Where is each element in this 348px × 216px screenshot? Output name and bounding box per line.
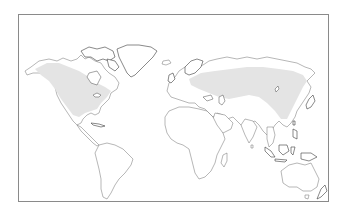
madagascar — [221, 153, 227, 167]
new-guinea — [301, 153, 317, 161]
taiwan — [293, 121, 295, 125]
india — [241, 119, 257, 143]
south-america-landmass — [95, 143, 133, 199]
java — [275, 159, 287, 162]
southeast-asia — [265, 121, 317, 162]
japan — [306, 95, 315, 109]
cuba — [91, 123, 105, 127]
world-map — [19, 15, 330, 203]
south-america — [95, 143, 133, 199]
central-america — [77, 125, 99, 146]
new-zealand — [317, 185, 327, 199]
sumatra — [265, 147, 275, 157]
map-frame — [18, 14, 329, 202]
borneo — [279, 145, 289, 155]
tasmania — [305, 195, 309, 199]
iceland — [162, 60, 171, 65]
sri-lanka — [251, 145, 253, 148]
greenland — [117, 45, 157, 77]
indochina — [267, 127, 275, 147]
sulawesi — [291, 147, 295, 155]
philippines — [293, 129, 297, 139]
baffin-island — [107, 59, 119, 71]
australia-landmass — [281, 163, 319, 191]
australia — [281, 163, 327, 199]
